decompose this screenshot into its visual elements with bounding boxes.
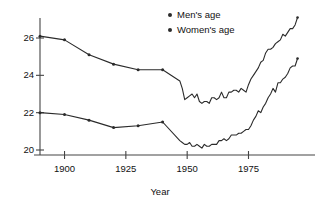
y-tick-label-26: 26: [14, 32, 34, 43]
x-tick-label-1925: 1925: [110, 163, 142, 174]
x-tick-label-1950: 1950: [171, 163, 203, 174]
line-chart-plot: [0, 0, 320, 208]
legend-item-womens-age: Women's age: [168, 24, 235, 36]
y-tick-label-22: 22: [14, 107, 34, 118]
legend-dot-icon: [168, 28, 172, 32]
chart-legend: Men's age Women's age: [168, 9, 235, 36]
x-tick-label-1975: 1975: [232, 163, 264, 174]
legend-item-mens-age: Men's age: [168, 9, 235, 21]
legend-label-womens-age: Women's age: [177, 25, 235, 35]
x-axis-title: Year: [0, 186, 320, 197]
legend-label-mens-age: Men's age: [177, 10, 221, 20]
legend-dot-icon: [168, 13, 172, 17]
x-tick-label-1900: 1900: [49, 163, 81, 174]
y-tick-label-24: 24: [14, 69, 34, 80]
chart-container: 20 22 24 26 1900 1925 1950 1975 Year Men…: [0, 0, 320, 208]
y-tick-label-20: 20: [14, 144, 34, 155]
